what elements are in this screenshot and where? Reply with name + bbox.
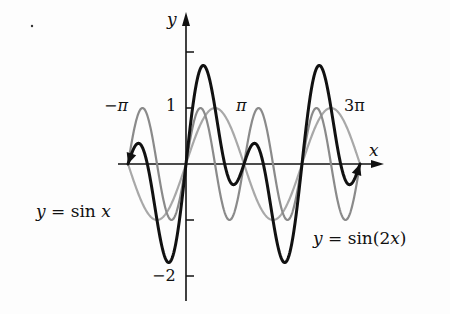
curve-left-arrow-icon: [127, 152, 136, 164]
function-plot: y x −π 1 π 3π −2 yy = sin = sin x y = si…: [0, 0, 450, 314]
y-tick-label-neg-2: −2: [152, 268, 176, 284]
y-axis-label: y: [167, 11, 177, 28]
plot-canvas: [0, 0, 450, 314]
y-tick-label-1: 1: [166, 98, 176, 114]
x-axis-label: x: [369, 142, 379, 159]
annotation-sin-x-var: x: [101, 201, 111, 221]
annotation-sin-x: yy = sin = sin x: [36, 203, 111, 220]
x-tick-label-3pi: 3π: [344, 98, 365, 114]
x-tick-label-pi: π: [236, 98, 247, 114]
annotation-sin-2x: y = sin(2x): [313, 230, 406, 247]
curve-right-arrow-icon: [352, 164, 361, 176]
annotation-sin-2x-suffix: ): [400, 228, 407, 248]
x-axis-arrow-icon: [371, 160, 384, 168]
speck-dot: [31, 25, 33, 27]
x-tick-label-neg-pi: −π: [104, 98, 128, 114]
y-axis-arrow-icon: [182, 12, 190, 26]
annotation-sin-2x-var: x: [390, 228, 400, 248]
